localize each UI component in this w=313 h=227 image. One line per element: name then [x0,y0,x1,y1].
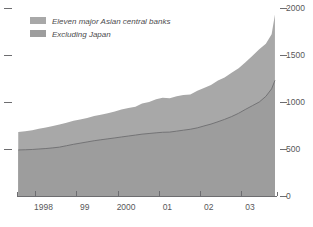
legend-swatch-1 [30,30,46,37]
y-axis-label-2000: 2000 [286,3,305,13]
x-axis-label-01: 01 [163,202,173,212]
legend-swatch-0 [30,17,46,24]
legend-label-0: Eleven major Asian central banks [52,17,170,26]
y-axis-label-500: 500 [286,144,300,154]
legend-label-1: Excluding Japan [52,30,111,39]
x-axis-label-02: 02 [204,202,214,212]
chart-container: 0500100015002000 1998992000010203 Eleven… [0,0,313,227]
y-axis-label-1000: 1000 [286,97,305,107]
x-axis-label-99: 99 [80,202,90,212]
area-chart: 0500100015002000 1998992000010203 Eleven… [0,0,313,227]
y-axis-label-1500: 1500 [286,50,305,60]
y-axis-label-0: 0 [286,191,291,201]
x-axis-label-1998: 1998 [34,202,53,212]
x-axis-label-03: 03 [245,202,255,212]
x-axis-label-2000: 2000 [117,202,136,212]
